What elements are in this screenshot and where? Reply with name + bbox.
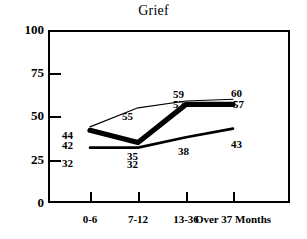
data-point-label: 32 [62,158,73,169]
data-point-label: 57 [173,99,184,110]
series-lines [0,0,307,239]
data-point-label: 55 [122,111,133,122]
data-point-label: 57 [233,99,244,110]
series-line-thick-line [90,104,233,142]
data-point-label: 42 [62,140,73,151]
data-point-label: 38 [178,146,189,157]
grief-line-chart: Grief 1007550250 0-67-1213-36Over 37 Mon… [0,0,307,239]
data-point-label: 43 [231,139,242,150]
data-point-label: 32 [127,159,138,170]
